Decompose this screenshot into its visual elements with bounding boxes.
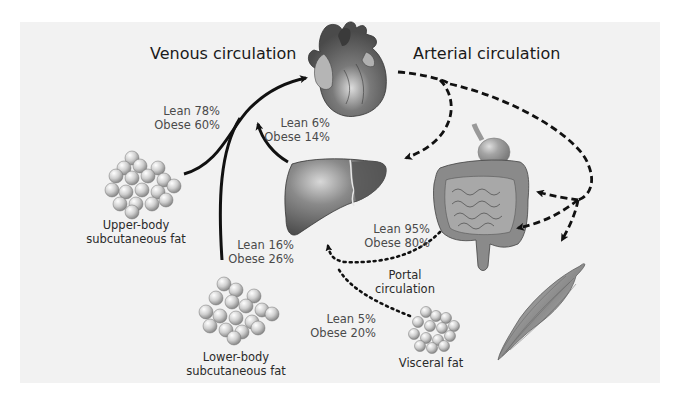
lower-flow-label: Lean 16% Obese 26% [224, 238, 294, 266]
upper-flow-label: Lean 78% Obese 60% [142, 104, 220, 132]
intestines-illustration [433, 124, 528, 271]
muscle-illustration [498, 264, 585, 360]
upper-flow-lean: Lean 78% [142, 104, 220, 118]
visceral-fat-label: Visceral fat [396, 356, 466, 370]
visceral-flow-obese: Obese 20% [306, 326, 376, 340]
visceral-fat-illustration [409, 307, 460, 354]
upper-body-fat-illustration [105, 151, 181, 219]
portal-circulation-label: Portal circulation [370, 268, 440, 296]
liver-flow-obese: Obese 14% [258, 130, 330, 144]
upper-flow-obese: Obese 60% [142, 118, 220, 132]
arterial-circulation-title: Arterial circulation [413, 44, 560, 63]
lower-flow-lean: Lean 16% [224, 238, 294, 252]
lower-flow-obese: Obese 26% [224, 252, 294, 266]
lower-body-fat-illustration [199, 277, 279, 345]
gut-flow-label: Lean 95% Obese 80% [346, 222, 430, 250]
gut-flow-lean: Lean 95% [346, 222, 430, 236]
gut-flow-obese: Obese 80% [346, 236, 430, 250]
lower-body-fat-label: Lower-body subcutaneous fat [186, 350, 286, 378]
heart-illustration [308, 22, 386, 117]
liver-flow-lean: Lean 6% [258, 116, 330, 130]
upper-body-fat-label: Upper-body subcutaneous fat [86, 218, 186, 246]
visceral-flow-label: Lean 5% Obese 20% [306, 312, 376, 340]
venous-circulation-title: Venous circulation [150, 44, 296, 63]
visceral-flow-lean: Lean 5% [306, 312, 376, 326]
liver-flow-label: Lean 6% Obese 14% [258, 116, 330, 144]
